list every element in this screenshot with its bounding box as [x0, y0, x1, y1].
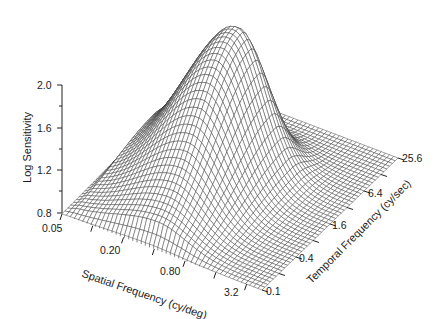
z-tick-label: 0.8 — [37, 208, 52, 219]
y-tick-label: 1.6 — [332, 220, 347, 231]
surface-plot — [0, 0, 447, 319]
y-tick-label: 0.4 — [299, 253, 314, 264]
z-tick-label: 1.6 — [37, 123, 52, 134]
z-tick-label: 2.0 — [37, 80, 52, 91]
y-tick-label: 6.4 — [368, 188, 383, 199]
x-tick-label: 3.2 — [224, 287, 239, 298]
x-tick-label: 0.05 — [42, 223, 62, 234]
z-axis-title: Log Sensitivity — [22, 103, 33, 193]
x-tick-label: 0.20 — [100, 245, 120, 256]
y-tick-label: 25.6 — [402, 153, 422, 164]
x-tick-label: 0.80 — [160, 266, 180, 277]
y-tick-label: 0.1 — [266, 286, 281, 297]
z-axis — [57, 85, 62, 213]
z-tick-label: 1.2 — [37, 165, 52, 176]
